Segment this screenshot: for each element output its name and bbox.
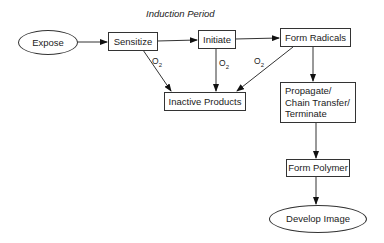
o2-label-sensitize: O2: [152, 56, 162, 68]
node-initiate: Initiate: [198, 30, 236, 49]
node-propagate-chain-transfer-terminate: Propagate/ Chain Transfer/ Terminate: [280, 82, 356, 123]
edge-initiate-formradicals: [235, 38, 279, 39]
node-sensitize: Sensitize: [108, 32, 158, 51]
node-inactive-products: Inactive Products: [164, 92, 246, 111]
propagate-line-2: Chain Transfer/: [285, 97, 350, 108]
node-form-radicals: Form Radicals: [280, 28, 351, 47]
induction-period-title: Induction Period: [146, 8, 215, 19]
edge-sensitize-initiate: [157, 40, 197, 41]
o2-label-form-radicals: O2: [254, 56, 264, 68]
o2-label-initiate: O2: [219, 58, 229, 70]
propagate-line-1: Propagate/: [285, 85, 331, 96]
node-develop-image: Develop Image: [269, 205, 367, 233]
propagate-line-3: Terminate: [285, 108, 327, 119]
node-expose: Expose: [18, 30, 78, 55]
node-form-polymer: Form Polymer: [286, 159, 350, 177]
